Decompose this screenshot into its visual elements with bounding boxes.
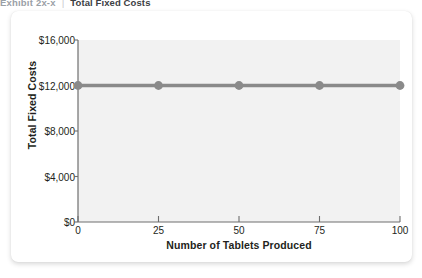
- x-axis-title: Number of Tablets Produced: [78, 239, 400, 251]
- data-point-marker: [235, 81, 244, 90]
- x-tick-label: 50: [219, 225, 259, 236]
- title-separator: |: [62, 0, 65, 8]
- data-point-marker: [74, 81, 83, 90]
- chart-card: Total Fixed Costs $16,000 $12,000 $8,000…: [11, 11, 412, 262]
- plot-area: [78, 40, 400, 222]
- y-tick-label: $12,000: [21, 80, 75, 91]
- exhibit-number: Exhibit 2x-x: [0, 0, 56, 8]
- exhibit-title: Total Fixed Costs: [70, 0, 150, 8]
- y-tick-label: $4,000: [21, 171, 75, 182]
- data-point-marker: [154, 81, 163, 90]
- y-tick-label: $16,000: [21, 35, 75, 46]
- exhibit-title-bar: Exhibit 2x-x | Total Fixed Costs: [0, 0, 422, 8]
- y-tick-label: $8,000: [21, 126, 75, 137]
- data-point-marker: [396, 81, 405, 90]
- x-tick-label: 100: [380, 225, 420, 236]
- chart-plot-svg: [78, 40, 400, 222]
- x-tick-label: 75: [300, 225, 340, 236]
- x-tick-label: 0: [58, 225, 98, 236]
- x-tick-label: 25: [139, 225, 179, 236]
- data-point-marker: [315, 81, 324, 90]
